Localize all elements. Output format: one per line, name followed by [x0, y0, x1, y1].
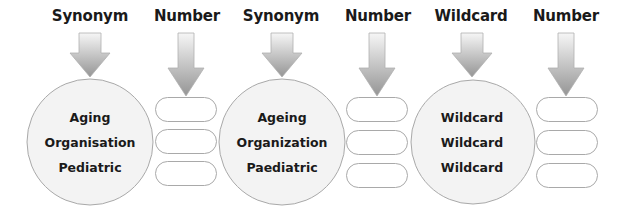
number-slot	[155, 129, 217, 154]
column-label-synonym-1: Synonym	[52, 7, 128, 25]
down-arrow-icon	[548, 33, 584, 96]
down-arrow-icon	[168, 33, 204, 96]
circle-item: Wildcard	[441, 160, 503, 175]
circle-item: Pediatric	[58, 160, 121, 175]
column-label-wildcard: Wildcard	[434, 7, 507, 25]
column-label-number-2: Number	[345, 7, 411, 25]
column-label-synonym-2: Synonym	[243, 7, 319, 25]
circle-item: Organisation	[45, 135, 136, 150]
number-slot	[155, 97, 217, 122]
circle-item: Wildcard	[441, 110, 503, 125]
circle-item: Ageing	[257, 110, 306, 125]
number-slot	[536, 130, 598, 155]
circle-item: Aging	[70, 110, 111, 125]
down-arrow-icon	[359, 33, 395, 96]
circle-item: Wildcard	[441, 135, 503, 150]
circle-item: Paediatric	[246, 160, 317, 175]
column-label-number-3: Number	[533, 7, 599, 25]
down-arrow-icon	[70, 33, 110, 77]
number-slot	[346, 97, 408, 122]
number-slot	[346, 163, 408, 188]
column-label-number-1: Number	[154, 7, 220, 25]
number-slot	[346, 130, 408, 155]
circle-item: Organization	[237, 135, 328, 150]
down-arrow-icon	[262, 33, 302, 77]
number-slot	[536, 163, 598, 188]
number-slot	[155, 161, 217, 186]
number-slot	[536, 97, 598, 122]
down-arrow-icon	[452, 33, 492, 77]
